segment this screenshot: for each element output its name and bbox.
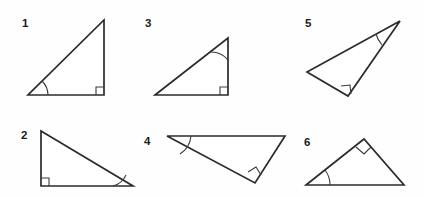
triangle-label-1: 1	[22, 17, 29, 29]
triangle-6: 6	[304, 136, 404, 185]
triangle-label-5: 5	[305, 17, 312, 29]
triangle-label-2: 2	[21, 129, 27, 141]
triangle-outline-5	[307, 21, 400, 96]
triangle-5: 5	[305, 17, 400, 96]
triangle-outline-2	[41, 131, 133, 186]
triangles-svg-canvas: 123456	[0, 0, 424, 197]
triangle-outline-4	[167, 136, 285, 183]
triangle-group: 123456	[21, 17, 404, 186]
triangle-4: 4	[144, 135, 285, 183]
triangle-2: 2	[21, 129, 133, 186]
triangle-outline-3	[155, 38, 228, 95]
triangle-label-4: 4	[144, 135, 151, 147]
triangle-outline-1	[28, 20, 104, 95]
triangle-label-3: 3	[145, 17, 151, 29]
triangle-label-6: 6	[304, 136, 310, 148]
triangles-figure: 123456	[0, 0, 424, 197]
triangle-outline-6	[306, 139, 404, 185]
triangle-1: 1	[22, 17, 104, 95]
triangle-3: 3	[145, 17, 228, 95]
